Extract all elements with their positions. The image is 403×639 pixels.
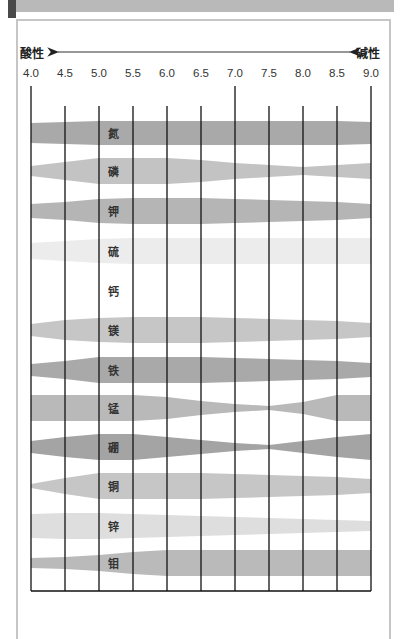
nutrient-label: 锰 bbox=[108, 400, 119, 416]
nutrient-label: 铁 bbox=[108, 362, 119, 378]
nutrient-label: 硼 bbox=[108, 439, 119, 455]
nutrient-label: 磷 bbox=[108, 163, 119, 179]
nutrient-label: 镁 bbox=[108, 322, 119, 338]
nutrient-label: 氮 bbox=[108, 125, 119, 141]
nutrient-label: 钼 bbox=[108, 555, 119, 571]
nutrient-label: 铜 bbox=[108, 478, 119, 494]
nutrient-label: 硫 bbox=[108, 243, 119, 259]
nutrient-label: 钾 bbox=[108, 203, 119, 219]
nutrient-label: 钙 bbox=[108, 283, 119, 299]
nutrient-label: 锌 bbox=[108, 518, 119, 534]
